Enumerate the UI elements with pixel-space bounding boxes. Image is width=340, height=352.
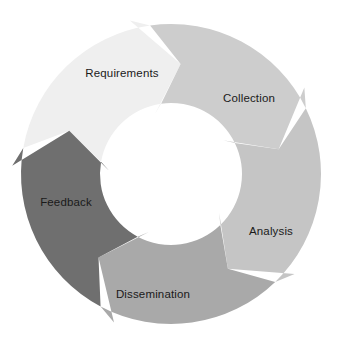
- cycle-diagram-canvas: RequirementsCollectionAnalysisDisseminat…: [0, 0, 340, 352]
- cycle-label-feedback: Feedback: [40, 196, 92, 208]
- cycle-diagram: RequirementsCollectionAnalysisDisseminat…: [0, 0, 340, 352]
- cycle-label-dissemination: Dissemination: [116, 288, 190, 300]
- cycle-segment-requirements[interactable]: [23, 20, 180, 161]
- cycle-label-collection: Collection: [223, 92, 275, 104]
- cycle-label-requirements: Requirements: [85, 67, 158, 79]
- cycle-segments-group: [12, 20, 321, 324]
- cycle-segment-collection[interactable]: [150, 24, 306, 149]
- cycle-label-analysis: Analysis: [249, 225, 293, 237]
